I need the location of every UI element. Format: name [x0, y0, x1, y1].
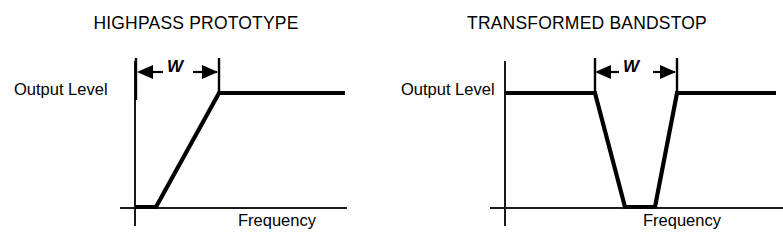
- bandstop-arrow-right-icon: [660, 65, 676, 79]
- panel-highpass: HIGHPASS PROTOTYPE Output Level Frequenc…: [0, 0, 392, 246]
- bandstop-plot: [391, 0, 783, 246]
- panel-bandstop: TRANSFORMED BANDSTOP Output Level Freque…: [391, 0, 783, 246]
- bandstop-arrow-left-icon: [595, 65, 611, 79]
- highpass-response-curve: [135, 93, 345, 207]
- bandstop-response-curve: [505, 93, 776, 207]
- highpass-arrow-right-icon: [202, 65, 218, 79]
- filter-response-figure: HIGHPASS PROTOTYPE Output Level Frequenc…: [0, 0, 783, 246]
- highpass-plot: [0, 0, 392, 246]
- highpass-arrow-left-icon: [137, 65, 153, 79]
